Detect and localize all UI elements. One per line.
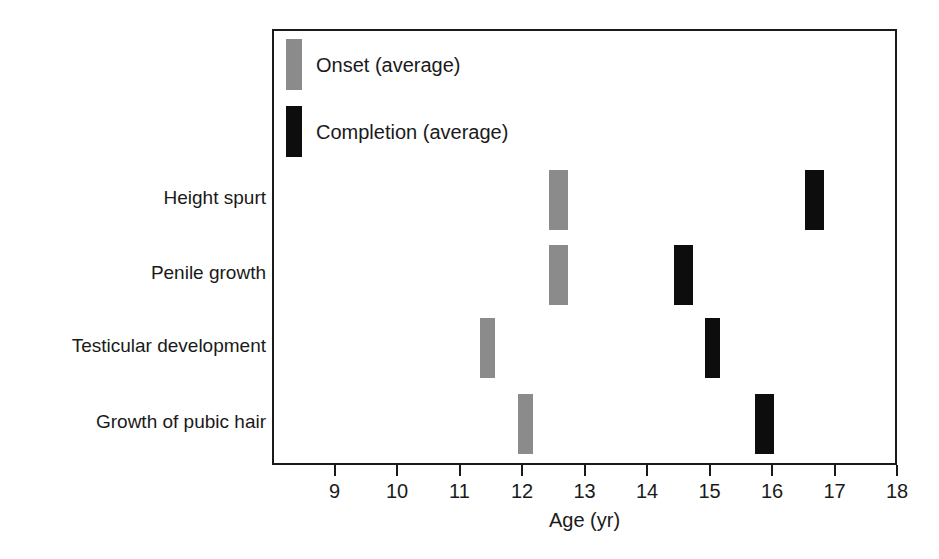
legend-swatch-completion (286, 106, 302, 157)
bar-onset-row0 (549, 170, 568, 230)
x-axis-title: Age (yr) (272, 510, 897, 530)
category-label-row1: Penile growth (0, 263, 266, 282)
x-tick-12 (521, 465, 523, 476)
legend-label-onset: Onset (average) (316, 55, 461, 75)
x-tick-14 (646, 465, 648, 476)
x-tick-label-12: 12 (502, 481, 542, 501)
bar-onset-row2 (480, 318, 495, 378)
chart-legend: Onset (average) Completion (average) (274, 31, 895, 463)
x-tick-label-16: 16 (752, 481, 792, 501)
category-label-row2: Testicular development (0, 336, 266, 355)
bar-completion-row3 (755, 394, 774, 454)
bar-onset-row3 (518, 394, 533, 454)
legend-swatch-onset (286, 39, 302, 90)
x-tick-label-15: 15 (690, 481, 730, 501)
x-tick-11 (459, 465, 461, 476)
x-tick-label-9: 9 (315, 481, 355, 501)
x-tick-label-17: 17 (815, 481, 855, 501)
bar-completion-row1 (674, 245, 693, 305)
x-tick-label-10: 10 (377, 481, 417, 501)
bar-completion-row0 (805, 170, 824, 230)
plot-area: Onset (average) Completion (average) (272, 29, 897, 465)
puberty-milestones-chart: Onset (average) Completion (average) Hei… (0, 0, 939, 559)
x-tick-label-18: 18 (877, 481, 917, 501)
category-label-row3: Growth of pubic hair (0, 412, 266, 431)
x-tick-label-13: 13 (565, 481, 605, 501)
legend-label-completion: Completion (average) (316, 122, 508, 142)
x-tick-13 (584, 465, 586, 476)
bar-onset-row1 (549, 245, 568, 305)
category-label-row0: Height spurt (0, 188, 266, 207)
x-tick-label-14: 14 (627, 481, 667, 501)
x-tick-label-11: 11 (440, 481, 480, 501)
x-tick-18 (896, 465, 898, 476)
x-tick-10 (396, 465, 398, 476)
x-tick-17 (834, 465, 836, 476)
x-tick-9 (334, 465, 336, 476)
bar-completion-row2 (705, 318, 720, 378)
x-tick-16 (771, 465, 773, 476)
x-tick-15 (709, 465, 711, 476)
